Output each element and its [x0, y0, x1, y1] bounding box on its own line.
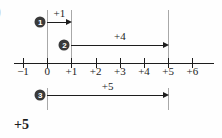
- jump-arrow-head: [66, 19, 72, 25]
- axis-tick-label: 0: [44, 66, 50, 77]
- jump-arrow-line: [47, 22, 66, 23]
- jump-label-1: +1: [53, 8, 65, 19]
- step-badge-3: 3: [35, 90, 46, 101]
- guide-at-0: [47, 10, 48, 63]
- axis-tick-label: +4: [138, 66, 150, 77]
- guide-at-5: [168, 10, 169, 63]
- step-badge-1: 1: [35, 17, 46, 28]
- axis-tick-label: +3: [114, 66, 126, 77]
- axis-tick-label: +5: [162, 66, 174, 77]
- jump-arrow-line: [71, 45, 163, 46]
- step-badge-2: 2: [59, 40, 70, 51]
- axis-tick-label: +6: [187, 66, 199, 77]
- jump-label-2: +4: [114, 31, 126, 42]
- axis-tick-label: +2: [90, 66, 102, 77]
- number-line-figure: ) −10+1+2+3+4+5+6 1+12+43+5 +5: [0, 0, 222, 138]
- guide-at-1: [71, 10, 72, 63]
- jump-arrow-head: [163, 92, 169, 98]
- guide-at-0-lower: [47, 88, 48, 110]
- jump-arrow-head: [163, 42, 169, 48]
- jump-label-3: +5: [102, 81, 114, 92]
- jump-arrow-line: [47, 95, 163, 96]
- axis-line: [14, 63, 214, 64]
- axis-tick-label: +1: [66, 66, 78, 77]
- axis-tick-label: −1: [17, 66, 29, 77]
- figure-corner-label: ): [0, 4, 1, 19]
- answer-text: +5: [14, 118, 29, 132]
